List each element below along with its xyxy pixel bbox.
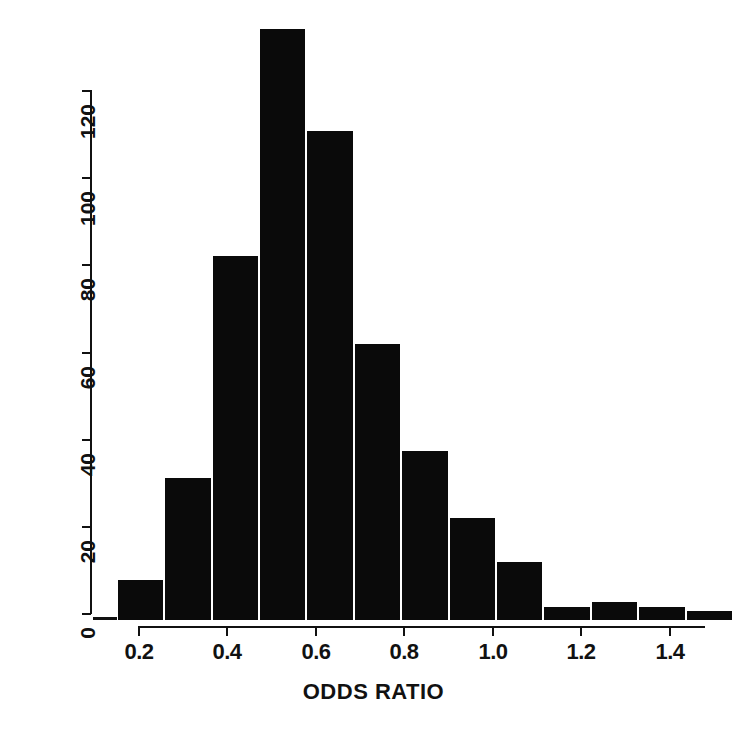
x-axis: 0.2 0.4 0.6 0.8 1.0 1.2 1.4 <box>0 626 747 666</box>
y-tick-120 <box>82 90 91 92</box>
x-tick-0.6 <box>315 626 317 636</box>
x-tick-1.4 <box>669 626 671 636</box>
bar-bin-13 <box>686 611 733 620</box>
bar-bin-4 <box>259 29 306 620</box>
bar-bin-10 <box>543 607 590 620</box>
bars-layer <box>93 20 733 620</box>
y-tick-80 <box>82 264 91 266</box>
bar-bin-12 <box>638 607 685 620</box>
bar-bin-3 <box>212 256 259 620</box>
x-tick-label-1.0: 1.0 <box>478 639 507 665</box>
x-tick-0.2 <box>138 626 140 636</box>
x-tick-label-0.4: 0.4 <box>212 639 241 665</box>
x-tick-0.4 <box>226 626 228 636</box>
bar-bin-11 <box>591 602 638 620</box>
y-tick-40 <box>82 439 91 441</box>
bar-bin-8 <box>449 518 496 620</box>
x-axis-line <box>138 626 705 628</box>
plot-area <box>93 20 733 620</box>
x-axis-title: ODDS RATIO <box>0 679 747 705</box>
bar-bin-5 <box>306 131 353 620</box>
x-tick-label-0.2: 0.2 <box>124 639 153 665</box>
x-tick-0.8 <box>403 626 405 636</box>
bar-bin-7 <box>401 451 448 620</box>
x-tick-label-1.4: 1.4 <box>655 639 684 665</box>
x-tick-1.0 <box>492 626 494 636</box>
bar-bin-0 <box>93 617 117 620</box>
bar-bin-9 <box>496 562 543 620</box>
x-tick-label-0.8: 0.8 <box>389 639 418 665</box>
x-tick-1.2 <box>580 626 582 636</box>
bar-bin-6 <box>354 344 401 620</box>
x-tick-label-1.2: 1.2 <box>566 639 595 665</box>
x-tick-label-0.6: 0.6 <box>301 639 330 665</box>
bar-bin-1 <box>117 580 164 620</box>
histogram-figure: 120 100 80 60 40 20 0 0.2 0.4 0.6 0.8 1.… <box>0 0 747 732</box>
y-tick-0 <box>82 613 91 615</box>
bar-bin-2 <box>164 478 211 620</box>
y-tick-100 <box>82 177 91 179</box>
y-tick-20 <box>82 526 91 528</box>
y-tick-60 <box>82 352 91 354</box>
